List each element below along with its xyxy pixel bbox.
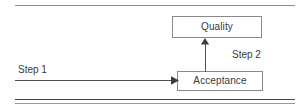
edge-label-step2: Step 2 [232, 50, 261, 60]
node-box-quality: Quality [172, 16, 262, 38]
figure-canvas: Quality Acceptance Step 1 Step 2 [0, 0, 308, 111]
edge-label-step1: Step 1 [18, 65, 47, 75]
connector-arrow-step2 [198, 38, 212, 72]
node-label-quality: Quality [201, 22, 233, 32]
top-horizontal-rule [15, 5, 295, 6]
bottom-horizontal-rule-thin [15, 103, 295, 104]
node-label-acceptance: Acceptance [193, 76, 246, 86]
connector-arrow-step1 [15, 74, 180, 87]
bottom-horizontal-rule-thick [15, 99, 295, 100]
node-box-acceptance: Acceptance [177, 71, 263, 91]
